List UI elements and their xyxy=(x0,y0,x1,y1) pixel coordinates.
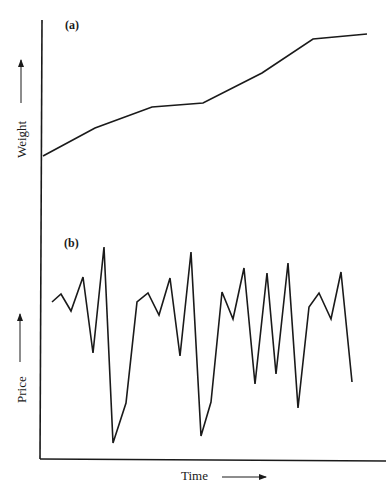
y-axis-label-weight: Weight xyxy=(14,121,30,158)
x-axis-label-time: Time xyxy=(181,468,208,484)
weight-line xyxy=(43,34,367,156)
x-axis xyxy=(40,459,386,461)
y-axis xyxy=(40,20,42,459)
y-axis-label-price: Price xyxy=(14,376,30,403)
panel-label-b: (b) xyxy=(64,236,79,251)
price-line xyxy=(52,247,352,443)
panel-label-a: (a) xyxy=(65,18,79,33)
chart-canvas xyxy=(0,0,392,495)
